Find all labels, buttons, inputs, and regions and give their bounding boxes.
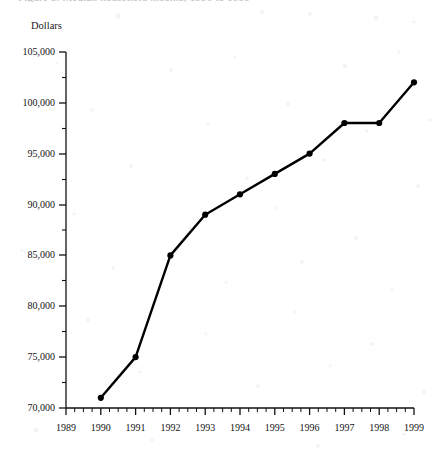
y-tick-label-75000: 75,000	[9, 352, 55, 362]
y-tick-label-85000: 85,000	[9, 250, 55, 260]
y-tick-label-105000: 105,000	[9, 47, 55, 57]
plot-area: 105,000 100,000 95,000 90,000 85,000 80,…	[0, 0, 443, 455]
data-point	[167, 252, 173, 258]
y-tick-label-80000: 80,000	[9, 301, 55, 311]
data-point	[376, 120, 382, 126]
data-point	[411, 79, 417, 85]
data-point-markers	[98, 79, 417, 401]
data-point	[133, 354, 139, 360]
x-tick-label-1999: 1999	[394, 423, 434, 433]
y-tick-label-100000: 100,000	[9, 98, 55, 108]
data-point	[341, 120, 347, 126]
data-point	[98, 395, 104, 401]
data-line-dollars	[101, 82, 414, 398]
data-point	[272, 171, 278, 177]
y-tick-label-90000: 90,000	[9, 200, 55, 210]
y-tick-label-70000: 70,000	[9, 403, 55, 413]
data-point	[237, 191, 243, 197]
y-tick-label-95000: 95,000	[9, 149, 55, 159]
plot-svg	[0, 0, 443, 455]
chart-figure: Figure 3. Median household income, 1990 …	[0, 0, 443, 455]
data-point	[202, 212, 208, 218]
data-point	[307, 151, 313, 157]
